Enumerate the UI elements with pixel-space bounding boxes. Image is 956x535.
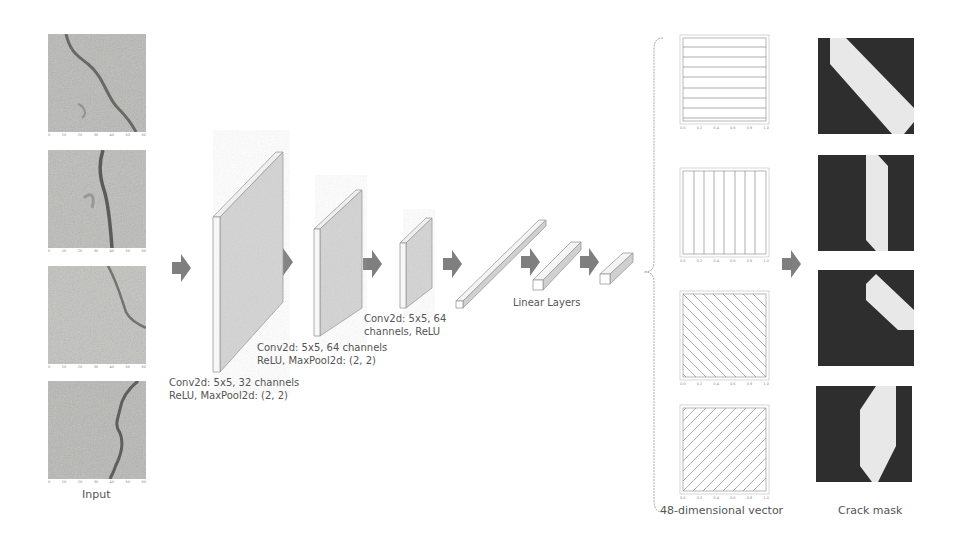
- mask-panel-1: [818, 38, 914, 134]
- mask-panel-3: [818, 270, 914, 366]
- mask-caption: Crack mask: [838, 504, 902, 517]
- mask-panel-2: [818, 155, 914, 251]
- mask-panel-4: [816, 386, 912, 482]
- mask-layer: [0, 0, 956, 535]
